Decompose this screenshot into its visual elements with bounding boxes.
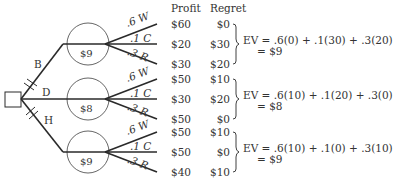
- branch-line-h: [21, 99, 63, 152]
- header-regret: Regret: [210, 2, 246, 14]
- decision-node: [5, 92, 21, 107]
- regret-b-c: $30: [200, 38, 230, 50]
- profit-h-c: $50: [171, 146, 191, 158]
- profit-b-r: $30: [171, 58, 191, 70]
- outcome-label-d-c: .1 C: [130, 87, 151, 99]
- brace-h: [233, 132, 239, 172]
- brace-d: [233, 79, 239, 119]
- profit-b-c: $20: [171, 38, 191, 50]
- ev-result-d: = $8: [257, 100, 283, 112]
- regret-h-c: $0: [200, 146, 230, 158]
- ev-result-h: = $9: [257, 153, 283, 165]
- profit-d-c: $30: [171, 93, 191, 105]
- header-profit: Profit: [171, 2, 201, 14]
- branch-label-d: D: [42, 86, 50, 98]
- node-value-b: $9: [80, 48, 93, 60]
- outcome-label-h-c: .1 C: [130, 140, 151, 152]
- ev-result-b: = $9: [257, 45, 283, 57]
- profit-d-w: $50: [171, 73, 191, 85]
- brace-b: [233, 24, 239, 64]
- regret-b-r: $20: [200, 58, 230, 70]
- regret-h-w: $10: [200, 126, 230, 138]
- regret-d-c: $20: [200, 93, 230, 105]
- node-value-d: $8: [80, 103, 93, 115]
- regret-d-w: $10: [200, 73, 230, 85]
- regret-b-w: $0: [200, 18, 230, 30]
- regret-h-r: $10: [200, 166, 230, 178]
- regret-d-r: $0: [200, 113, 230, 125]
- profit-h-r: $40: [171, 166, 191, 178]
- outcome-label-b-c: .1 C: [130, 32, 151, 44]
- profit-d-r: $50: [171, 113, 191, 125]
- branch-label-h: H: [44, 114, 53, 126]
- profit-b-w: $60: [171, 18, 191, 30]
- profit-h-w: $50: [171, 126, 191, 138]
- branch-label-b: B: [34, 58, 42, 70]
- node-value-h: $9: [80, 156, 93, 168]
